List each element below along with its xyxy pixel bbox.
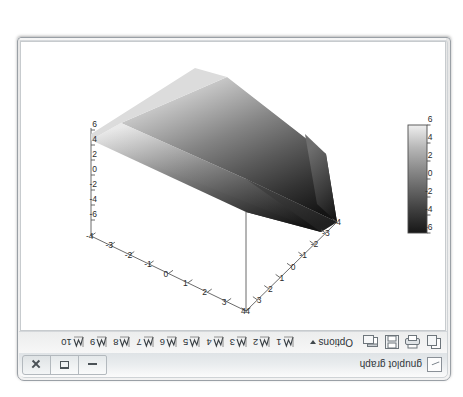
x-tick-label: -3 [105,240,113,250]
plot-toggle-label: 3 [230,337,235,348]
plot-toggle-button-2[interactable]: 2 [251,336,272,350]
save-icon[interactable] [382,334,401,352]
window-title: gnuplot graph [360,360,422,371]
maximize-icon [60,361,69,369]
plot-toggle-button-5[interactable]: 5 [181,336,202,350]
z-tick-label: -6 [89,209,97,219]
plot-canvas[interactable]: -4-3-2-101234 43210-1-2-3-4 -6-4-20246 -… [20,41,446,331]
x-tick-label: -1 [144,259,152,269]
minimize-icon [88,363,97,365]
y-tick-label: -1 [299,250,307,260]
plot-toggle-button-1[interactable]: 1 [274,336,295,350]
plot-toggle-button-9[interactable]: 9 [88,336,109,350]
curve-toggle-icon [73,337,84,349]
surface-mesh [91,68,337,232]
close-icon [36,359,37,370]
plot-toggle-label: 7 [136,337,141,348]
z-tick-label: 0 [92,164,97,174]
print-icon[interactable] [403,334,422,352]
graph-window-icon [427,358,442,373]
title-bar[interactable]: gnuplot graph [19,353,447,377]
curve-toggle-icon [96,337,107,349]
curve-toggle-icon [119,337,130,349]
z-tick-label: 2 [92,149,97,159]
toolbar: Options 12345678910 [19,331,447,353]
y-tick-label: -4 [333,217,341,227]
plot-toggle-label: 10 [61,337,72,348]
rotated-screenshot-root: gnuplot graph [0,0,463,397]
z-tick-label: -4 [89,194,97,204]
y-tick-label: 0 [291,262,296,272]
open-window-icon[interactable] [361,334,380,352]
x-tick-label: -4 [86,231,94,241]
status-bar: view: 40.0000, 39.0000 scale: 1.00000, 1… [20,37,446,41]
z-tick-label: -2 [89,179,97,189]
plot-toggle-label: 6 [160,337,165,348]
colorbar-tick-label: -2 [425,186,433,196]
y-tick-label: -3 [322,228,330,238]
curve-toggle-icon [283,337,294,349]
y-axis-ticks: -4-3-2-101234 [242,217,342,316]
curve-toggle-icon [189,337,200,349]
gnuplot-window: gnuplot graph [17,37,451,381]
chevron-down-icon [310,341,316,345]
plot-toggle-button-7[interactable]: 7 [134,336,155,350]
x-tick-label: 1 [183,278,188,288]
curve-toggle-icon [143,337,154,349]
plot-toggle-group: 12345678910 [59,336,295,350]
plot-toggle-label: 2 [253,337,258,348]
minimize-button[interactable] [78,355,107,375]
close-button[interactable] [22,355,51,375]
surface-plot: -4-3-2-101234 43210-1-2-3-4 -6-4-20246 -… [20,41,445,330]
options-label: Options [319,337,353,348]
x-tick-label: 3 [222,297,227,307]
plot-toggle-button-8[interactable]: 8 [111,336,132,350]
colorbar-tick-label: -4 [425,204,433,214]
colorbar-tick-label: 0 [428,168,433,178]
options-menu-button[interactable]: Options [308,336,355,349]
y-tick-label: 3 [257,295,262,305]
plot-toggle-button-6[interactable]: 6 [158,336,179,350]
plot-toggle-label: 8 [113,337,118,348]
colorbar-tick-label: 2 [428,150,433,160]
y-tick-label: 1 [279,273,284,283]
z-tick-label: 4 [92,134,97,144]
window-controls [22,355,106,375]
plot-toggle-button-4[interactable]: 4 [204,336,225,350]
plot-toggle-label: 4 [206,337,211,348]
plot-toggle-label: 5 [183,337,188,348]
copy-to-clipboard-icon[interactable] [424,334,443,352]
curve-toggle-icon [166,337,177,349]
x-tick-label: -2 [125,250,133,260]
colorbar-tick-label: 4 [428,132,433,142]
x-tick-label: 2 [202,287,207,297]
curve-toggle-icon [259,337,270,349]
z-tick-label: 6 [92,119,97,129]
curve-toggle-icon [213,337,224,349]
colorbar-tick-label: 6 [428,114,433,124]
y-tick-label: 2 [268,284,273,294]
plot-toggle-label: 9 [90,337,95,348]
x-tick-label: 4 [241,306,246,316]
plot-toggle-label: 1 [276,337,281,348]
plot-toggle-button-10[interactable]: 10 [59,336,86,350]
colorbar-tick-label: -6 [425,222,433,232]
plot-toggle-button-3[interactable]: 3 [228,336,249,350]
maximize-button[interactable] [50,355,79,375]
colorbar [408,125,427,233]
y-tick-label: -2 [311,239,319,249]
curve-toggle-icon [236,337,247,349]
x-tick-label: 0 [164,269,169,279]
